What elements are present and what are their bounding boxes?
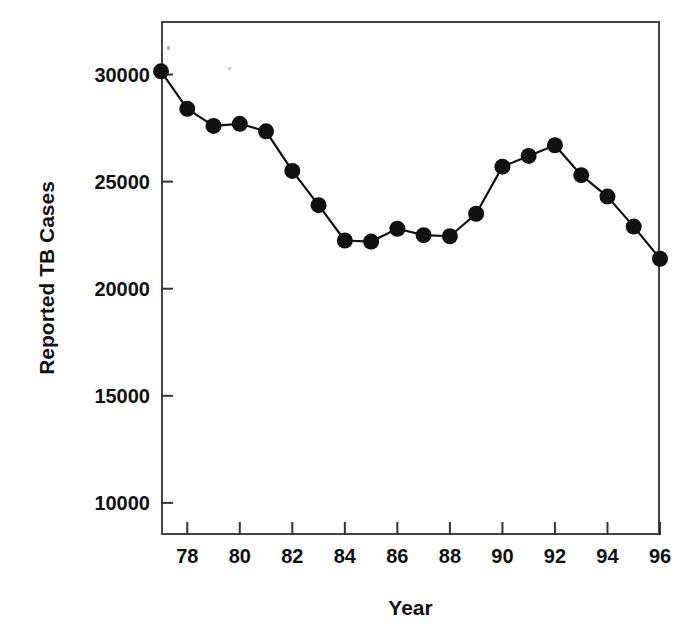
chart-figure: Reported TB Cases 1000015000200002500030… xyxy=(0,0,696,640)
x-axis-tick-labels: 78808284868890929496 xyxy=(0,0,696,640)
x-tick-label: 96 xyxy=(630,545,690,568)
x-tick-label: 78 xyxy=(157,545,217,568)
x-tick-label: 84 xyxy=(315,545,375,568)
x-axis-title: Year xyxy=(161,596,660,620)
x-tick-label: 88 xyxy=(420,545,480,568)
x-tick-label: 82 xyxy=(262,545,322,568)
x-tick-label: 90 xyxy=(472,545,532,568)
x-tick-label: 80 xyxy=(210,545,270,568)
x-tick-label: 94 xyxy=(577,545,637,568)
scan-artifact-speck xyxy=(167,46,170,50)
x-tick-label: 86 xyxy=(367,545,427,568)
x-tick-label: 92 xyxy=(525,545,585,568)
scan-artifact-speck-2 xyxy=(228,67,231,70)
